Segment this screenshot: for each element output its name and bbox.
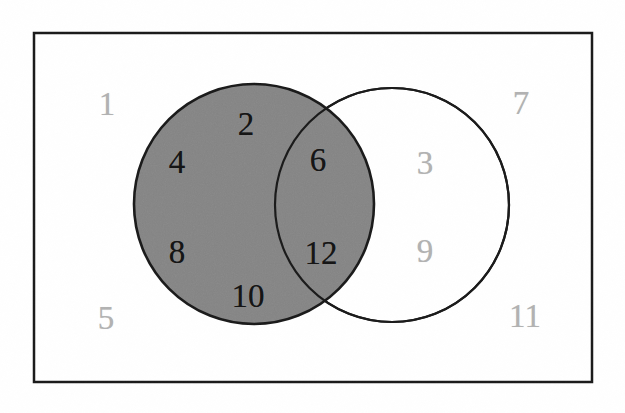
venn-label-7: 7 bbox=[513, 87, 530, 120]
venn-label-2: 2 bbox=[238, 108, 255, 141]
venn-label-11: 11 bbox=[509, 300, 541, 333]
venn-label-3: 3 bbox=[417, 147, 434, 180]
venn-label-6: 6 bbox=[310, 144, 327, 177]
venn-label-9: 9 bbox=[417, 235, 434, 268]
venn-label-1: 1 bbox=[99, 88, 116, 121]
venn-diagram-canvas bbox=[0, 0, 625, 413]
venn-label-12: 12 bbox=[305, 237, 338, 270]
venn-label-8: 8 bbox=[169, 236, 186, 269]
venn-label-4: 4 bbox=[169, 146, 186, 179]
venn-diagram-figure: 4 2 8 10 6 12 3 9 1 7 5 11 bbox=[0, 0, 625, 413]
venn-label-5: 5 bbox=[98, 302, 115, 335]
venn-label-10: 10 bbox=[232, 280, 265, 313]
